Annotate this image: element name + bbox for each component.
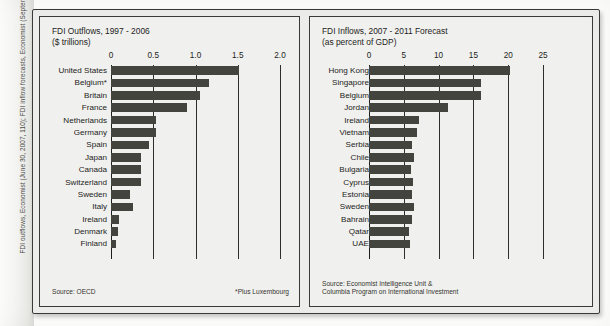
bar-row: Canada <box>40 164 299 176</box>
bar <box>369 91 481 100</box>
bar-row: Singapore <box>310 77 592 89</box>
bar <box>111 66 239 75</box>
bar-category-label: Jordan <box>344 102 369 113</box>
left-bar-rows: United StatesBelgium*BritainFranceNether… <box>40 65 299 251</box>
bar <box>369 240 410 249</box>
bar <box>111 103 187 112</box>
right-bar-rows: Hong KongSingaporeBelgiumJordanIrelandVi… <box>310 65 592 251</box>
bar <box>369 103 448 112</box>
bar-row: Japan <box>40 152 299 164</box>
bar-category-label: Belgium* <box>75 77 107 88</box>
bar-category-label: UAE <box>352 238 369 249</box>
bar <box>369 227 409 236</box>
bar-row: Vietnam <box>310 127 592 139</box>
bar-category-label: Bahrain <box>341 214 369 225</box>
bar <box>111 240 116 249</box>
bar-category-label: Britain <box>84 90 107 101</box>
left-axis-tick-labels: 00.51.01.52.0 <box>40 51 299 63</box>
bar-row: Denmark <box>40 226 299 238</box>
bar-category-label: Italy <box>92 201 107 212</box>
bar-category-label: Switzerland <box>65 177 107 188</box>
bar-row: Netherlands <box>40 115 299 127</box>
bar-category-label: Netherlands <box>63 115 107 126</box>
right-axis-tick-labels: 0510152025 <box>310 51 592 63</box>
bar-category-label: Belgium <box>340 90 369 101</box>
bar <box>369 116 419 125</box>
bar-category-label: Ireland <box>344 115 369 126</box>
bar-category-label: Estonia <box>342 189 369 200</box>
bar-row: Cyprus <box>310 177 592 189</box>
bar <box>111 203 133 212</box>
bar-row: Serbia <box>310 139 592 151</box>
bar-row: Sweden <box>310 201 592 213</box>
bar-category-label: Chile <box>351 152 369 163</box>
bar <box>111 116 156 125</box>
bar-category-label: Denmark <box>74 226 107 237</box>
bar-row: Switzerland <box>40 177 299 189</box>
axis-tick-label: 1.5 <box>232 51 243 60</box>
axis-tick-label: 25 <box>538 51 547 60</box>
axis-tick-label: 5 <box>402 51 407 60</box>
bar-row: Hong Kong <box>310 65 592 77</box>
bar-category-label: Sweden <box>78 189 107 200</box>
bar <box>369 203 414 212</box>
bar <box>369 79 481 88</box>
left-plot-area: 00.51.01.52.0 United StatesBelgium*Brita… <box>40 17 299 306</box>
bar-category-label: Sweden <box>340 201 369 212</box>
bar <box>111 178 141 187</box>
bar <box>111 165 141 174</box>
figure-citation-caption: FDI outflows, Economist (June 30, 2007, … <box>19 0 26 254</box>
bar-category-label: Japan <box>85 152 107 163</box>
axis-tick-label: 15 <box>469 51 478 60</box>
bar <box>111 227 118 236</box>
axis-tick-label: 0.5 <box>148 51 159 60</box>
axis-tick-label: 2.0 <box>274 51 285 60</box>
bar <box>111 215 119 224</box>
bar-row: Jordan <box>310 102 592 114</box>
bar-category-label: Cyprus <box>343 177 369 188</box>
bar-row: Belgium <box>310 90 592 102</box>
bar <box>111 141 149 150</box>
chart-panel-fdi-inflows: FDI Inflows, 2007 - 2011 Forecast (as pe… <box>309 16 593 307</box>
bar-row: Italy <box>40 201 299 213</box>
bar-category-label: Canada <box>79 164 107 175</box>
bar-row: United States <box>40 65 299 77</box>
bar <box>369 141 412 150</box>
bar <box>111 190 130 199</box>
bar <box>369 190 412 199</box>
bar <box>111 91 200 100</box>
bar-row: Germany <box>40 127 299 139</box>
bar-row: Bahrain <box>310 214 592 226</box>
bar-category-label: Serbia <box>346 139 369 150</box>
bar-category-label: Bulgaria <box>339 164 369 175</box>
bar-category-label: France <box>82 102 107 113</box>
bar-category-label: Vietnam <box>339 127 369 138</box>
bar <box>369 153 414 162</box>
right-source-line-2: Columbia Program on International Invest… <box>322 288 458 297</box>
bar-row: France <box>40 102 299 114</box>
bar <box>369 215 412 224</box>
axis-tick-label: 0 <box>109 51 114 60</box>
axis-tick-label: 10 <box>434 51 443 60</box>
bar-row: Ireland <box>310 115 592 127</box>
bar-category-label: Finland <box>80 238 107 249</box>
bar <box>111 153 141 162</box>
left-source-note: Source: OECD <box>52 288 96 297</box>
bar-row: Estonia <box>310 189 592 201</box>
bar-category-label: Germany <box>74 127 107 138</box>
right-source-note: Source: Economist Intelligence Unit & Co… <box>322 280 458 297</box>
bar-category-label: Qatar <box>349 226 369 237</box>
bar-row: Belgium* <box>40 77 299 89</box>
bar <box>369 66 510 75</box>
panels-container: FDI Outflows, 1997 - 2006 ($ trillions) … <box>39 16 593 307</box>
bar-category-label: Singapore <box>332 77 369 88</box>
scanned-page: FDI outflows, Economist (June 30, 2007, … <box>0 0 610 326</box>
bar <box>369 128 417 137</box>
bar-row: Qatar <box>310 226 592 238</box>
bar-row: Finland <box>40 238 299 250</box>
bar-row: Britain <box>40 90 299 102</box>
bar-category-label: Ireland <box>82 214 107 225</box>
left-footnote: *Plus Luxembourg <box>235 288 289 297</box>
chart-panel-fdi-outflows: FDI Outflows, 1997 - 2006 ($ trillions) … <box>39 16 300 307</box>
axis-tick-label: 1.0 <box>190 51 201 60</box>
